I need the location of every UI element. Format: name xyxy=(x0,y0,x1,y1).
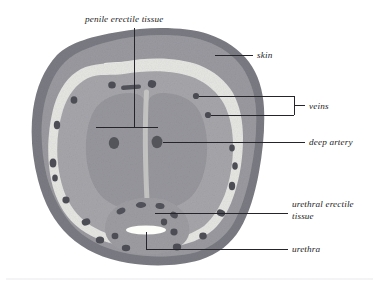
anatomy-diagram: penile erectile tissue skin veins deep a… xyxy=(0,0,379,288)
label-deep-artery: deep artery xyxy=(309,137,354,147)
label-urethral-erectile-tissue-line1: urethral erectile xyxy=(292,199,354,209)
deep-artery-right xyxy=(152,136,163,148)
label-veins: veins xyxy=(309,101,329,111)
label-skin: skin xyxy=(257,50,273,60)
deep-artery-left xyxy=(109,137,119,149)
vein-lower-right xyxy=(205,112,211,118)
figure-page: penile erectile tissue skin veins deep a… xyxy=(0,0,379,288)
label-penile-erectile-tissue: penile erectile tissue xyxy=(84,14,163,24)
label-urethra: urethra xyxy=(292,244,321,254)
label-urethral-erectile-tissue-line2: tissue xyxy=(292,211,314,221)
vein-upper-right xyxy=(193,93,199,99)
